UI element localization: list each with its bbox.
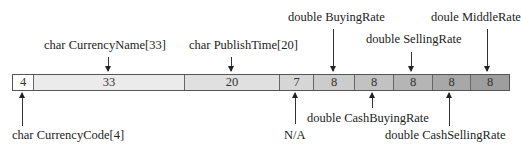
label-middle-rate: doule MiddleRate <box>431 10 521 24</box>
cell-cash-buying-rate: 8 <box>355 75 394 90</box>
label-publish-time: char PublishTime[20] <box>189 38 298 52</box>
label-selling-rate: double SellingRate <box>366 32 461 46</box>
cell-cash-selling-rate: 8 <box>433 75 471 90</box>
arrow-down-publish-time-icon <box>231 57 232 71</box>
memory-layout-bar: 4 33 20 7 8 8 8 8 8 <box>12 74 510 91</box>
cell-padding: 7 <box>280 75 314 90</box>
arrow-up-padding-icon <box>295 93 296 124</box>
cell-middle-rate: 8 <box>471 75 509 90</box>
label-na: N/A <box>284 128 306 142</box>
arrow-down-currency-name-icon <box>108 57 109 71</box>
cell-selling-rate: 8 <box>394 75 433 90</box>
label-currency-name: char CurrencyName[33] <box>44 38 166 52</box>
label-cash-selling-rate: double CashSellingRate <box>385 128 505 142</box>
arrow-up-cash-selling-rate-icon <box>449 93 450 126</box>
arrow-down-selling-rate-icon <box>411 52 412 71</box>
arrow-down-middle-rate-icon <box>487 29 488 71</box>
arrow-up-cash-buying-rate-icon <box>372 93 373 108</box>
arrow-down-buying-rate-icon <box>333 29 334 71</box>
cell-currency-name: 33 <box>34 75 185 90</box>
cell-publish-time: 20 <box>185 75 280 90</box>
label-buying-rate: double BuyingRate <box>288 10 385 24</box>
label-cash-buying-rate: double CashBuyingRate <box>307 111 429 125</box>
cell-currency-code: 4 <box>13 75 34 90</box>
arrow-up-currency-code-icon <box>22 93 23 126</box>
cell-buying-rate: 8 <box>314 75 355 90</box>
label-currency-code: char CurrencyCode[4] <box>12 128 124 142</box>
